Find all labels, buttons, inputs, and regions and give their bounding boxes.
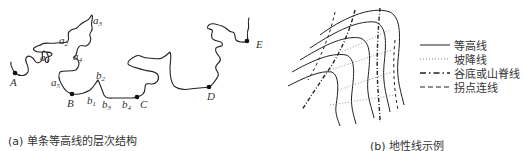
label-a4: a4 [73,50,83,64]
label-B: B [67,97,74,109]
point-B-marker [70,92,75,97]
figure-a-contour-hierarchy: A B C D E a1 a2 a3 a4 a5 b1 b2 b3 b4 [0,0,270,125]
contour-5 [288,72,340,126]
dash-dot-line-icon [420,69,450,77]
legend-item-contour: 等高线 [420,38,520,52]
contour-1 [320,10,404,105]
legend-item-valley-ridge: 谷底或山脊线 [420,66,520,80]
label-b2: b2 [96,69,106,83]
label-A: A [9,76,17,88]
point-C-marker [135,95,140,100]
label-C: C [140,98,148,110]
point-A-marker [13,71,18,76]
figure-b-legend: 等高线 坡降线 谷底或山脊线 拐点连线 [420,38,520,94]
dashed-line-icon [420,83,450,91]
legend-item-slope: 坡降线 [420,52,520,66]
slope-line-1 [342,30,390,52]
label-D: D [206,90,215,102]
ridge-line-1 [302,10,355,110]
label-a3: a3 [93,14,103,28]
contour-4 [292,54,356,124]
label-E: E [255,38,263,50]
inflection-line-2 [394,40,398,110]
legend-item-inflection: 拐点连线 [420,80,520,94]
figure-a-caption: (a) 单条等高线的层次结构 [8,132,137,148]
point-D-marker [207,85,212,90]
slope-line-4 [330,95,395,105]
label-b4: b4 [122,98,132,112]
figure-b-terrain-lines [280,0,430,130]
label-b1: b1 [87,94,96,108]
figure-b-caption: (b) 地性线示例 [370,137,444,151]
label-a2: a2 [59,34,69,48]
label-b3: b3 [102,98,112,112]
contour-line-b [128,18,249,97]
label-a1: a1 [40,51,49,65]
dotted-line-icon [420,55,450,63]
point-E-marker [245,39,250,44]
solid-line-icon [420,41,450,49]
